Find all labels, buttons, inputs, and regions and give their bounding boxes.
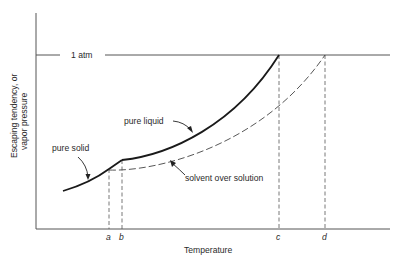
tick-label-b: b — [119, 232, 124, 242]
phase-diagram-chart: 1 atm pure solid pure liquid solvent ove… — [0, 0, 399, 261]
pure-solid-curve — [63, 160, 122, 191]
x-axis-label: Temperature — [184, 245, 232, 255]
pure-solid-arrowhead — [86, 174, 91, 180]
y-axis-label: Escaping tendency, or vapor pressure — [9, 73, 29, 158]
one-atm-reference: 1 atm — [36, 50, 390, 60]
pure-solid-label: pure solid — [52, 143, 89, 153]
curves — [63, 55, 325, 191]
drop-lines — [109, 55, 325, 229]
pure-liquid-label: pure liquid — [124, 116, 164, 126]
tick-label-a: a — [106, 232, 111, 242]
tick-label-c: c — [276, 232, 281, 242]
pure-liquid-curve — [122, 55, 279, 160]
y-axis-label-line1: Escaping tendency, or — [9, 73, 19, 158]
y-axis-label-line2: vapor pressure — [19, 92, 29, 150]
x-tick-labels: a b c d — [106, 232, 327, 242]
solvent-over-solution-label: solvent over solution — [185, 173, 264, 183]
annotations: pure solid pure liquid solvent over solu… — [52, 116, 264, 183]
one-atm-label: 1 atm — [71, 50, 93, 60]
tick-label-d: d — [322, 232, 327, 242]
axes — [36, 13, 390, 229]
solvent-over-solution-curve — [109, 55, 325, 170]
